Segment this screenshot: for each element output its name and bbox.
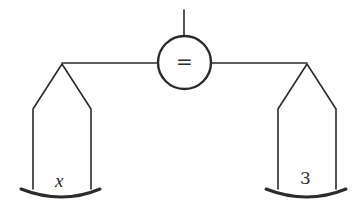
equals-symbol: = xyxy=(176,51,193,71)
balance-scale-diagram: = x 3 xyxy=(0,0,363,210)
right-pan-bowl xyxy=(266,189,346,197)
right-pan-label: 3 xyxy=(300,170,311,187)
left-pan-label: x xyxy=(55,171,63,190)
